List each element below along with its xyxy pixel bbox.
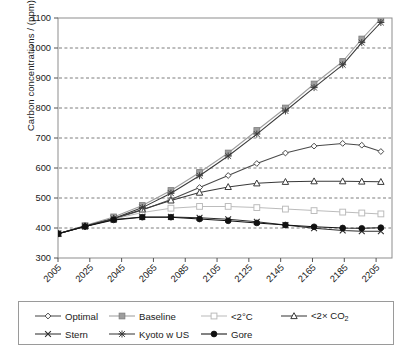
data-point-marker [196, 172, 203, 179]
marker-diamond [45, 313, 51, 319]
chart-page: Carbon concentrations / (ppm) 3004005006… [0, 0, 418, 355]
marker-circle [340, 225, 346, 231]
marker-asterisk [282, 108, 289, 115]
marker-square-open [225, 204, 231, 210]
marker-square-open [197, 204, 203, 210]
data-point-marker [55, 231, 61, 237]
legend-item-2-c[interactable]: <2°C [199, 307, 279, 325]
legend-marker-square-filled [107, 309, 137, 323]
legend-marker-cross-x [33, 327, 63, 341]
legend-marker-triangle-open [279, 309, 309, 323]
data-point-marker [82, 224, 88, 230]
data-point-marker [339, 61, 346, 68]
data-point-marker [340, 225, 346, 231]
y-tick-label: 300 [35, 253, 51, 263]
y-tick-label: 500 [35, 193, 51, 203]
data-point-marker [111, 217, 117, 223]
marker-asterisk [119, 331, 126, 338]
marker-asterisk [339, 61, 346, 68]
data-point-marker [283, 222, 289, 228]
data-point-marker [168, 205, 174, 211]
y-tick-label: 800 [35, 103, 51, 113]
y-tick-label: 600 [35, 163, 51, 173]
marker-square-open [283, 206, 289, 212]
marker-square-open [254, 205, 260, 211]
marker-circle [283, 222, 289, 228]
legend-item-gore[interactable]: Gore [199, 325, 279, 343]
legend-item-2-co[interactable]: <2× CO2 [279, 307, 369, 325]
marker-asterisk [377, 19, 384, 26]
marker-asterisk [167, 190, 174, 197]
marker-square-open [359, 210, 365, 216]
legend-label: Optimal [63, 311, 98, 322]
x-tick-label: 2205 [360, 262, 382, 284]
data-point-marker [378, 225, 384, 231]
x-tick-label: 2125 [233, 262, 255, 284]
marker-square-open [340, 209, 346, 215]
legend-item-kyoto-w-us[interactable]: Kyoto w US [107, 325, 199, 343]
data-point-marker [225, 153, 232, 160]
legend-label-subscript: 2 [345, 314, 349, 323]
data-point-marker [253, 131, 260, 138]
data-point-marker [119, 331, 126, 338]
data-point-marker [225, 204, 231, 210]
marker-asterisk [358, 39, 365, 46]
data-point-marker [168, 214, 174, 220]
marker-asterisk [311, 84, 318, 91]
legend-item-baseline[interactable]: Baseline [107, 307, 199, 325]
legend-row-secondary: SternKyoto w USGore [19, 325, 393, 343]
marker-circle [111, 217, 117, 223]
data-point-marker [358, 39, 365, 46]
data-point-marker [139, 204, 146, 211]
data-point-marker [139, 214, 145, 220]
data-point-marker [254, 205, 260, 211]
y-axis-ticks: 30040050060070080090010001100 [30, 13, 58, 263]
x-axis-ticks: 2005202520452065208521052125214521652185… [42, 258, 382, 284]
marker-asterisk [196, 172, 203, 179]
x-tick-label: 2085 [169, 262, 191, 284]
marker-circle [378, 225, 384, 231]
data-point-marker [197, 216, 203, 222]
x-tick-label: 2145 [264, 262, 286, 284]
data-point-marker [45, 313, 51, 319]
data-point-marker [254, 220, 260, 226]
y-tick-label: 1000 [30, 43, 51, 53]
marker-circle [82, 224, 88, 230]
data-point-marker [378, 211, 384, 217]
data-point-marker [311, 84, 318, 91]
legend-label: Stern [63, 329, 88, 340]
marker-square-open [168, 205, 174, 211]
marker-circle [211, 331, 217, 337]
x-tick-label: 2025 [74, 262, 96, 284]
chart-legend: OptimalBaseline<2°C<2× CO2 SternKyoto w … [18, 301, 394, 345]
legend-marker-diamond-open [33, 309, 63, 323]
marker-asterisk [139, 204, 146, 211]
data-point-marker [211, 331, 217, 337]
marker-circle [197, 216, 203, 222]
legend-label: Kyoto w US [137, 329, 189, 340]
legend-marker-asterisk [107, 327, 137, 341]
marker-square-open [378, 211, 384, 217]
legend-label: <2× CO2 [309, 310, 349, 323]
legend-item-optimal[interactable]: Optimal [33, 307, 107, 325]
data-point-marker [359, 210, 365, 216]
marker-circle [254, 220, 260, 226]
data-point-marker [283, 206, 289, 212]
x-tick-label: 2065 [137, 262, 159, 284]
data-point-marker [340, 209, 346, 215]
data-point-marker [377, 19, 384, 26]
data-point-marker [197, 204, 203, 210]
data-point-marker [211, 313, 217, 319]
x-tick-label: 2165 [296, 262, 318, 284]
marker-asterisk [253, 131, 260, 138]
legend-label: <2°C [229, 311, 253, 322]
data-point-marker [225, 218, 231, 224]
marker-circle [359, 225, 365, 231]
marker-asterisk [225, 153, 232, 160]
legend-row-primary: OptimalBaseline<2°C<2× CO2 [19, 307, 393, 325]
marker-circle [225, 218, 231, 224]
y-tick-label: 700 [35, 133, 51, 143]
legend-item-stern[interactable]: Stern [33, 325, 107, 343]
legend-marker-square-open [199, 309, 229, 323]
data-point-marker [359, 225, 365, 231]
